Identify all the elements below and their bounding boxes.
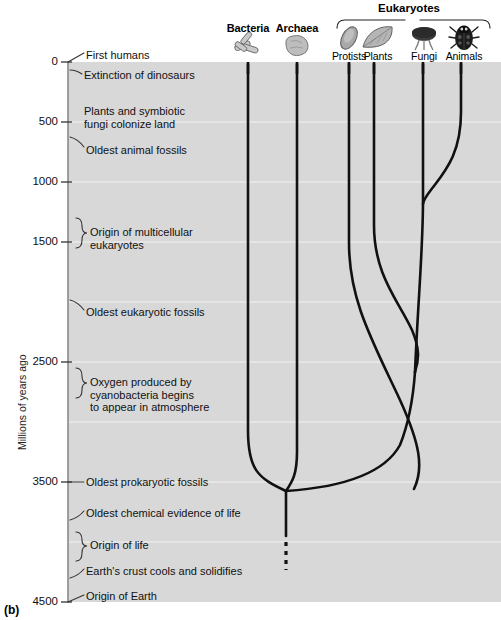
protist-cell-icon — [337, 24, 361, 52]
taxon-label-archaea: Archaea — [267, 22, 327, 34]
event-label-plants-colonize-land: Plants and symbiotic fungi colonize land — [84, 105, 185, 130]
y-axis-title: Millions of years ago — [16, 354, 28, 450]
eukaryotes-group-label: Eukaryotes — [378, 2, 440, 14]
event-label-extinction-of-dinosaurs: Extinction of dinosaurs — [84, 69, 195, 82]
archaea-cell-icon — [286, 36, 308, 56]
event-label-origin-multicellular-eukaryotes: Origin of multicellular eukaryotes — [90, 226, 193, 251]
fungus-mushroom-icon — [412, 27, 436, 50]
y-tick-2500: 2500 — [10, 355, 58, 367]
y-tick-0: 0 — [10, 55, 58, 67]
event-label-oldest-eukaryotic-fossils: Oldest eukaryotic fossils — [86, 306, 205, 319]
y-tick-1500: 1500 — [10, 235, 58, 247]
plot-background — [68, 62, 501, 602]
y-tick-500: 500 — [10, 115, 58, 127]
event-label-earths-crust-cools: Earth's crust cools and solidifies — [86, 565, 242, 578]
taxon-label-animals: Animals — [433, 50, 495, 62]
timeline-tree-svg — [0, 0, 501, 620]
event-label-first-humans: First humans — [86, 49, 150, 62]
event-label-oldest-animal-fossils: Oldest animal fossils — [86, 144, 187, 157]
event-label-oldest-prokaryotic-fossils: Oldest prokaryotic fossils — [86, 476, 208, 489]
event-label-oxygen-cyanobacteria: Oxygen produced by cyanobacteria begins … — [90, 376, 209, 414]
y-tick-1000: 1000 — [10, 175, 58, 187]
figure-panel: Eukaryotes Bacteria Archaea Protists Pla… — [0, 0, 501, 620]
panel-letter: (b) — [4, 603, 19, 617]
animal-beetle-icon — [449, 26, 479, 51]
y-tick-3500: 3500 — [10, 475, 58, 487]
event-label-origin-of-earth: Origin of Earth — [86, 590, 157, 603]
event-label-origin-of-life: Origin of life — [90, 539, 149, 552]
event-label-oldest-chemical-evidence: Oldest chemical evidence of life — [86, 507, 241, 520]
plant-leaf-icon — [363, 27, 392, 48]
bacteria-rods-icon — [234, 31, 259, 54]
